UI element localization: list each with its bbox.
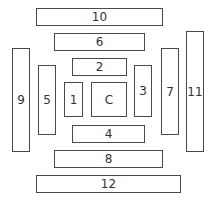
box-label: 6 [96,36,104,48]
box-label: 3 [139,85,147,97]
box-label: 11 [187,86,202,98]
box-8: 8 [54,150,163,168]
box-label: 8 [105,153,113,165]
box-label: 10 [92,11,107,23]
box-1: 1 [64,82,83,117]
box-12: 12 [36,175,181,193]
box-label: 5 [43,94,51,106]
box-label: 9 [17,94,25,106]
box-label: 4 [105,128,113,140]
box-5: 5 [38,65,56,135]
box-label: 12 [101,178,116,190]
box-2: 2 [72,58,127,76]
box-label: 7 [166,86,174,98]
box-label: 2 [96,61,104,73]
box-center-c: C [91,82,127,117]
box-label: 1 [70,94,78,106]
box-10: 10 [36,8,163,26]
box-label: C [105,94,113,106]
box-3: 3 [134,65,152,117]
box-6: 6 [54,33,145,51]
box-7: 7 [161,48,179,135]
box-9: 9 [12,48,30,152]
box-11: 11 [186,31,204,152]
box-4: 4 [72,125,145,143]
